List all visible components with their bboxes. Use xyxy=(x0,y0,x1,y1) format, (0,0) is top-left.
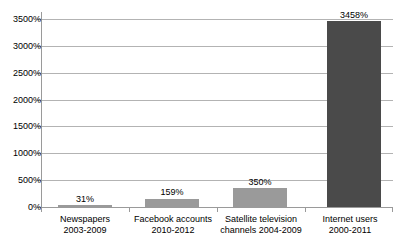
x-tick-mark-4 xyxy=(392,208,393,212)
x-axis-label-satellite-tv-channels-line2: channels 2004-2009 xyxy=(213,225,309,236)
y-tick-label-2500: 2500% xyxy=(3,69,41,78)
x-axis-label-satellite-tv-channels: Satellite television channels 2004-2009 xyxy=(213,214,309,236)
x-axis-label-newspapers-line2: 2003-2009 xyxy=(41,225,129,236)
x-axis-label-facebook-accounts-line2: 2010-2012 xyxy=(127,225,219,236)
bar-internet-users xyxy=(327,21,381,207)
x-tick-mark-3 xyxy=(305,208,306,212)
x-axis-label-newspapers-line1: Newspapers xyxy=(60,214,110,224)
x-tick-mark-0 xyxy=(41,208,42,212)
y-tick-label-1500: 1500% xyxy=(3,122,41,131)
y-tick-label-1000: 1000% xyxy=(3,149,41,158)
x-axis-label-internet-users-line2: 2000-2011 xyxy=(307,225,393,236)
x-axis-label-satellite-tv-channels-line1: Satellite television xyxy=(225,214,297,224)
x-axis-label-facebook-accounts-line1: Facebook accounts xyxy=(134,214,212,224)
x-axis-label-newspapers: Newspapers 2003-2009 xyxy=(41,214,129,236)
bar-satellite-tv-channels xyxy=(233,188,287,207)
y-axis-line xyxy=(41,12,42,208)
bar-chart: 3500% 3000% 2500% 2000% 1500% 1000% 500%… xyxy=(0,0,394,250)
x-axis-label-facebook-accounts: Facebook accounts 2010-2012 xyxy=(127,214,219,236)
bar-value-satellite-tv-channels: 350% xyxy=(233,177,287,187)
y-tick-label-0: 0% xyxy=(3,203,41,212)
bar-value-internet-users: 3458% xyxy=(327,10,381,20)
y-tick-label-3000: 3000% xyxy=(3,42,41,51)
plot-area xyxy=(41,19,393,207)
bar-value-facebook-accounts: 159% xyxy=(145,187,199,197)
x-tick-mark-2 xyxy=(217,208,218,212)
bar-value-newspapers: 31% xyxy=(58,194,112,204)
bar-facebook-accounts xyxy=(145,199,199,208)
y-axis-labels: 3500% 3000% 2500% 2000% 1500% 1000% 500%… xyxy=(0,0,41,250)
y-tick-label-3500: 3500% xyxy=(3,15,41,24)
x-tick-mark-1 xyxy=(129,208,130,212)
x-axis-label-internet-users: Internet users 2000-2011 xyxy=(307,214,393,236)
x-axis-label-internet-users-line1: Internet users xyxy=(322,214,377,224)
y-tick-label-2000: 2000% xyxy=(3,96,41,105)
y-tick-label-500: 500% xyxy=(3,176,41,185)
